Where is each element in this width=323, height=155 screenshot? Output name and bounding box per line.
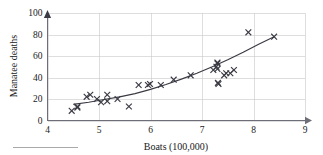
x-axis-title: Boats (100,000) <box>144 141 208 153</box>
x-tick-label-4: 4 <box>45 125 50 135</box>
y-tick-label-100: 100 <box>28 8 43 18</box>
x-tick-label-9: 9 <box>303 125 308 135</box>
x-tick-label-5: 5 <box>97 125 102 135</box>
y-tick-label-80: 80 <box>33 30 43 40</box>
figure-footer-rule <box>13 147 78 148</box>
y-tick-label-40: 40 <box>33 73 43 83</box>
y-tick-label-60: 60 <box>33 51 43 61</box>
scatter-plot-figure: 020406080100 456789 Boats (100,000) Mana… <box>0 0 323 155</box>
y-axis-title: Manatee deaths <box>8 35 19 98</box>
x-tick-label-8: 8 <box>251 125 256 135</box>
x-tick-label-7: 7 <box>200 125 205 135</box>
manatee-deaths-vs-boats-chart: 020406080100 456789 Boats (100,000) Mana… <box>0 0 323 155</box>
x-tick-label-6: 6 <box>148 125 153 135</box>
y-tick-label-0: 0 <box>38 116 43 126</box>
y-tick-label-20: 20 <box>33 94 43 104</box>
